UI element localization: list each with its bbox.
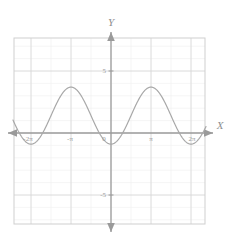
- cosine-wave-plot: Y X 5 -5 0 -2π -π π 2π: [0, 0, 233, 239]
- y-axis-arrow-bottom: [107, 223, 115, 232]
- x-tick-label-minus-two-pi: -2π: [23, 135, 33, 143]
- x-axis-label: X: [216, 119, 225, 131]
- x-tick-label-two-pi: 2π: [188, 135, 196, 143]
- x-tick-label-minus-pi: -π: [67, 135, 73, 143]
- x-axis-arrow-left: [8, 129, 17, 137]
- y-axis-arrow-top: [107, 32, 115, 41]
- y-tick-label-minus-5: -5: [100, 191, 106, 199]
- x-axis-arrow-right: [204, 129, 213, 137]
- plot-background: [14, 38, 205, 224]
- y-tick-label-5: 5: [103, 67, 107, 75]
- x-tick-label-pi: π: [149, 135, 153, 143]
- y-axis-label: Y: [108, 16, 116, 28]
- graph-figure: Y X 5 -5 0 -2π -π π 2π: [0, 0, 233, 239]
- origin-label: 0: [102, 135, 106, 143]
